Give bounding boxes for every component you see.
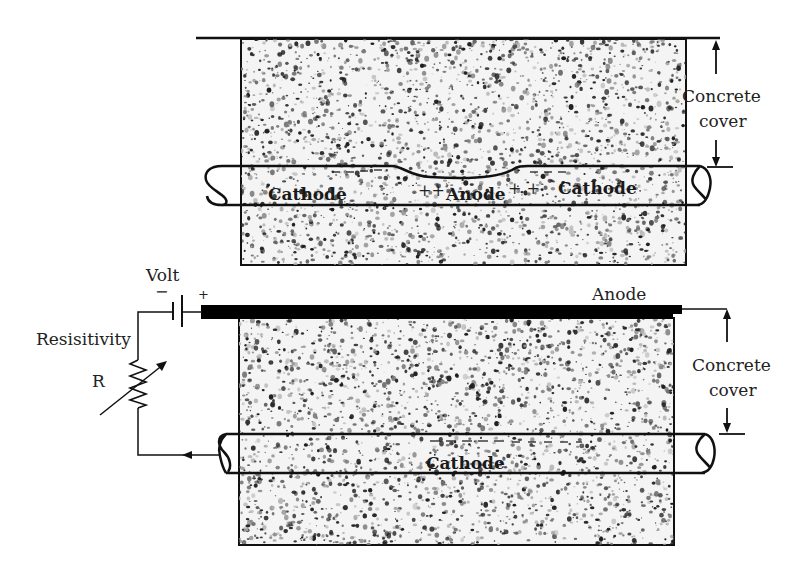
- aggregate-speck: [432, 342, 434, 343]
- aggregate-speck: [310, 76, 312, 77]
- aggregate-speck: [262, 213, 267, 219]
- aggregate-speck: [242, 372, 247, 378]
- aggregate-speck: [336, 100, 339, 102]
- aggregate-speck: [629, 461, 633, 464]
- aggregate-speck: [647, 453, 650, 455]
- aggregate-speck: [434, 328, 436, 329]
- aggregate-speck: [347, 122, 351, 125]
- aggregate-speck: [516, 455, 518, 457]
- aggregate-speck: [539, 475, 540, 476]
- aggregate-speck: [302, 392, 305, 394]
- aggregate-speck: [376, 211, 380, 215]
- aggregate-speck: [398, 325, 399, 326]
- aggregate-speck: [556, 242, 558, 243]
- aggregate-speck: [350, 463, 352, 465]
- aggregate-speck: [605, 413, 610, 417]
- aggregate-speck: [402, 146, 403, 147]
- aggregate-speck: [534, 395, 537, 399]
- aggregate-speck: [558, 49, 562, 51]
- aggregate-speck: [599, 161, 601, 162]
- aggregate-speck: [468, 113, 472, 118]
- aggregate-speck: [555, 537, 557, 539]
- aggregate-speck: [518, 378, 521, 382]
- aggregate-speck: [524, 401, 528, 404]
- aggregate-speck: [277, 98, 281, 102]
- aggregate-speck: [358, 386, 359, 387]
- aggregate-speck: [350, 160, 353, 162]
- aggregate-speck: [253, 94, 256, 96]
- aggregate-speck: [622, 70, 625, 72]
- aggregate-speck: [613, 134, 615, 136]
- aggregate-speck: [253, 71, 254, 73]
- aggregate-speck: [668, 253, 670, 255]
- aggregate-speck: [351, 112, 355, 116]
- aggregate-speck: [262, 223, 265, 226]
- aggregate-speck: [268, 360, 273, 364]
- aggregate-speck: [539, 127, 540, 128]
- aggregate-speck: [341, 416, 344, 417]
- aggregate-speck: [514, 515, 518, 519]
- aggregate-speck: [406, 232, 408, 233]
- aggregate-speck: [545, 517, 548, 520]
- aggregate-speck: [445, 41, 449, 45]
- aggregate-speck: [608, 95, 610, 97]
- aggregate-speck: [359, 100, 362, 104]
- aggregate-speck: [638, 143, 641, 145]
- aggregate-speck: [463, 536, 465, 538]
- aggregate-speck: [422, 478, 425, 481]
- aggregate-speck: [594, 218, 597, 220]
- aggregate-speck: [548, 121, 549, 123]
- aggregate-speck: [526, 230, 528, 232]
- cathode-label-top-left: Cathode: [268, 184, 347, 204]
- aggregate-speck: [638, 85, 643, 89]
- aggregate-speck: [325, 525, 329, 528]
- aggregate-speck: [506, 119, 510, 122]
- aggregate-speck: [263, 240, 264, 241]
- aggregate-speck: [366, 85, 367, 86]
- aggregate-speck: [423, 149, 424, 150]
- aggregate-speck: [624, 129, 625, 130]
- anode-label-top: Anode: [445, 184, 506, 204]
- aggregate-speck: [281, 409, 283, 411]
- aggregate-speck: [496, 323, 497, 324]
- aggregate-speck: [665, 250, 669, 253]
- aggregate-speck: [357, 328, 359, 330]
- aggregate-speck: [423, 362, 424, 363]
- aggregate-speck: [304, 247, 306, 249]
- aggregate-speck: [524, 51, 527, 54]
- aggregate-speck: [569, 453, 571, 455]
- aggregate-speck: [322, 248, 325, 251]
- aggregate-speck: [543, 372, 547, 377]
- aggregate-speck: [440, 343, 443, 345]
- aggregate-speck: [270, 411, 272, 413]
- aggregate-speck: [493, 384, 496, 387]
- aggregate-speck: [279, 537, 283, 540]
- aggregate-speck: [621, 508, 626, 511]
- aggregate-speck: [523, 345, 527, 348]
- aggregate-speck: [579, 469, 580, 470]
- aggregate-speck: [478, 227, 480, 229]
- aggregate-speck: [323, 238, 326, 241]
- aggregate-speck: [251, 360, 256, 363]
- aggregate-speck: [477, 495, 479, 497]
- aggregate-speck: [539, 441, 542, 444]
- aggregate-speck: [439, 101, 442, 104]
- aggregate-speck: [338, 123, 340, 124]
- aggregate-speck: [532, 452, 535, 455]
- aggregate-speck: [524, 43, 528, 46]
- aggregate-speck: [376, 517, 379, 520]
- aggregate-speck: [374, 363, 377, 366]
- aggregate-speck: [372, 410, 374, 412]
- aggregate-speck: [316, 397, 319, 400]
- aggregate-speck: [312, 497, 315, 500]
- aggregate-speck: [625, 169, 629, 173]
- aggregate-speck: [599, 241, 604, 246]
- aggregate-speck: [539, 500, 542, 502]
- aggregate-speck: [672, 97, 675, 100]
- aggregate-speck: [616, 449, 617, 451]
- aggregate-speck: [623, 113, 624, 114]
- aggregate-speck: [355, 399, 360, 404]
- aggregate-speck: [422, 423, 424, 424]
- aggregate-speck: [391, 132, 393, 135]
- aggregate-speck: [658, 174, 660, 176]
